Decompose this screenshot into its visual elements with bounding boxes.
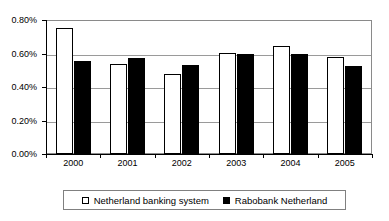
bar-2005-series-1 (327, 57, 344, 154)
x-tick-mark (46, 154, 47, 158)
bar-2005-series-2 (345, 66, 362, 154)
x-tick-mark (263, 154, 264, 158)
x-tick-label: 2005 (335, 158, 355, 168)
chart-page: 0.00%0.20%0.40%0.60%0.80% 20002001200220… (0, 0, 389, 221)
x-tick-label: 2003 (226, 158, 246, 168)
legend-label: Netherland banking system (94, 195, 209, 206)
bar-2004-series-1 (273, 46, 290, 154)
y-tick-label: 0.20% (11, 116, 37, 126)
bar-2000-series-2 (74, 61, 91, 154)
x-tick-label: 2002 (172, 158, 192, 168)
y-tick-label: 0.00% (11, 149, 37, 159)
x-tick-mark (372, 154, 373, 158)
bar-2003-series-2 (237, 54, 254, 155)
bar-2001-series-1 (110, 64, 127, 154)
x-tick-mark (100, 154, 101, 158)
y-axis: 0.00%0.20%0.40%0.60%0.80% (0, 0, 44, 174)
open-square-icon (82, 197, 89, 204)
x-tick-label: 2000 (63, 158, 83, 168)
bars-layer (46, 20, 372, 154)
x-tick-mark (209, 154, 210, 158)
bar-2000-series-1 (56, 28, 73, 154)
y-tick-label: 0.60% (11, 49, 37, 59)
y-tick-label: 0.40% (11, 82, 37, 92)
filled-square-icon (223, 197, 230, 204)
legend-item-netherland-banking-system[interactable]: Netherland banking system (82, 195, 209, 206)
legend-label: Rabobank Netherland (235, 195, 327, 206)
x-tick-mark (318, 154, 319, 158)
chart-legend: Netherland banking system Rabobank Nethe… (63, 190, 346, 210)
bar-2002-series-1 (164, 74, 181, 154)
legend-item-rabobank-netherland[interactable]: Rabobank Netherland (223, 195, 327, 206)
y-tick-label: 0.80% (11, 15, 37, 25)
bar-2001-series-2 (128, 58, 145, 154)
bar-2003-series-1 (219, 53, 236, 154)
x-tick-label: 2001 (117, 158, 137, 168)
bar-2004-series-2 (291, 54, 308, 154)
bar-2002-series-2 (182, 65, 199, 154)
x-tick-label: 2004 (280, 158, 300, 168)
x-tick-mark (155, 154, 156, 158)
